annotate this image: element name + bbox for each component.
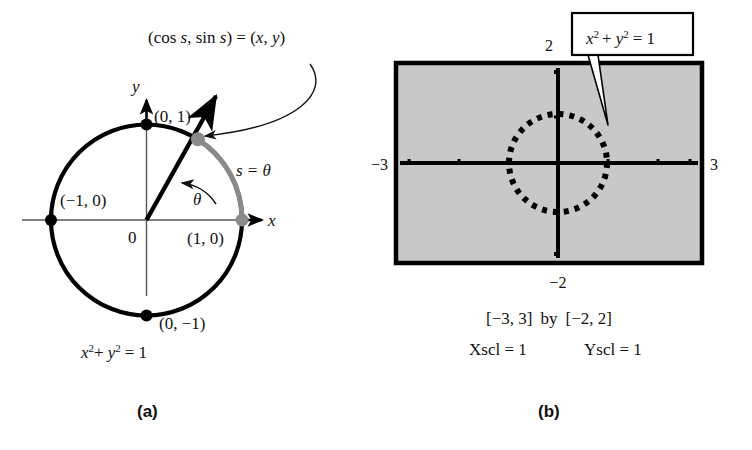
window-yscl: Yscl = 1 [584, 340, 642, 359]
window-by: by [541, 309, 559, 328]
point-label-bottom: (0, −1) [159, 314, 205, 333]
callout-label-a: (cos s, sin s) = (x, y) [148, 28, 285, 47]
callout-pointer-a [205, 64, 316, 136]
svg-text:[−3, 3]by[−2, 2]: [−3, 3]by[−2, 2] [486, 309, 612, 328]
panel-b: x2+y2= 1 2 −3 3 −2 [−3, 3]by[−2, 2] Xscl… [371, 13, 718, 421]
figure-root: y x 0 (0, 1) (−1, 0) (1, 0) (0, −1) s = … [0, 0, 752, 450]
figure-svg: y x 0 (0, 1) (−1, 0) (1, 0) (0, −1) s = … [0, 0, 752, 450]
svg-text:(cos s, sin s) = (x, y): (cos s, sin s) = (x, y) [148, 28, 285, 47]
eq-b-plus: + [602, 29, 612, 48]
screen-label-right: 3 [710, 156, 718, 173]
callout-open: (cos [148, 28, 181, 47]
point-left-marker [45, 214, 57, 226]
panel-caption-a: (a) [137, 402, 158, 421]
eq-b-rhs: = 1 [633, 29, 655, 48]
callout-close: ) = ( [226, 28, 256, 47]
callout-sep: , [263, 28, 272, 47]
point-top-marker [141, 119, 153, 131]
point-right-marker [236, 214, 249, 227]
window-x-range: [−3, 3] [486, 309, 532, 328]
window-settings: [−3, 3]by[−2, 2] Xscl = 1 Yscl = 1 [469, 309, 642, 359]
eq-a-base2: y [106, 343, 116, 362]
eq-a-sup2: 2 [115, 342, 121, 354]
eq-a-plus: + [94, 343, 104, 362]
eq-b-sup2: 2 [623, 28, 629, 40]
window-y-range: [−2, 2] [566, 309, 612, 328]
eq-b-base2: y [614, 29, 624, 48]
point-label-right: (1, 0) [187, 229, 224, 248]
equation-a: x2+y2= 1 [80, 342, 147, 362]
angle-label-theta: θ [193, 190, 201, 209]
callout-y: y [270, 28, 280, 47]
arc-label-s-theta: s = θ [236, 161, 271, 180]
window-xscl: Xscl = 1 [469, 340, 527, 359]
screen-label-bottom: −2 [549, 274, 566, 291]
panel-a: y x 0 (0, 1) (−1, 0) (1, 0) (0, −1) s = … [22, 28, 316, 421]
callout-end: ) [279, 28, 285, 47]
x-axis-label: x [267, 211, 276, 230]
point-label-left: (−1, 0) [60, 191, 106, 210]
point-terminal-marker [191, 132, 205, 146]
eq-a-rhs: = 1 [125, 343, 147, 362]
y-axis-label: y [130, 77, 140, 96]
eq-b-sup1: 2 [594, 28, 600, 40]
callout-comma: , sin [187, 28, 220, 47]
screen-label-left: −3 [371, 156, 388, 173]
point-bottom-marker [141, 310, 153, 322]
svg-text:x2+y2= 1: x2+y2= 1 [80, 342, 147, 362]
panel-caption-b: (b) [538, 402, 560, 421]
point-label-top: (0, 1) [154, 107, 191, 126]
origin-label: 0 [128, 228, 137, 247]
screen-label-top: 2 [545, 37, 553, 54]
